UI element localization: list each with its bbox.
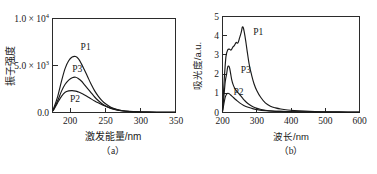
panel-a-ylabel: 振子强度 — [4, 46, 16, 86]
panel-a-label-p2: P2 — [70, 94, 80, 104]
panel-b-xlabel: 波长/nm — [273, 131, 309, 142]
panel-b-label-p2: P2 — [233, 87, 243, 97]
panel-b-ytick-label-2: 2 — [214, 69, 219, 79]
panel-b-label-p3: P3 — [241, 65, 251, 75]
panel-b-ylabel: 吸光度/a.u. — [192, 42, 203, 91]
panel-b-ytick-label-3: 3 — [214, 50, 219, 60]
panel-b-xtick-label-2: 400 — [284, 116, 299, 126]
panel-a-xtick-label-2: 300 — [134, 116, 149, 126]
panel-b-xtick-label-1: 300 — [250, 116, 264, 126]
panel-a-xtick-label-0: 200 — [63, 116, 78, 126]
panel-a-ytick-label-2: 1.0 × 104 — [14, 12, 49, 24]
panel-a-svg: 1.0 × 104 5.0 × 103 0.0 200 250 300 350 … — [0, 0, 190, 174]
panel-b-xtick-label-4: 600 — [352, 116, 367, 126]
panel-b-label-p1: P1 — [253, 27, 263, 37]
panel-a-caption: （a） — [101, 145, 125, 156]
panel-a-xtick-label-3: 350 — [169, 116, 184, 126]
panel-b-caption: （b） — [279, 145, 304, 156]
panel-a-ytick-label-0: 0.0 — [37, 108, 49, 118]
panel-a-xtick-label-1: 250 — [98, 116, 113, 126]
chart-panel-a: 1.0 × 104 5.0 × 103 0.0 200 250 300 350 … — [0, 0, 190, 174]
panel-b-ytick-label-4: 4 — [214, 31, 219, 41]
panel-b-xtick-label-3: 500 — [318, 116, 333, 126]
panel-b-xtick-label-0: 200 — [215, 116, 230, 126]
panel-a-label-p3: P3 — [72, 64, 82, 74]
panel-a-xlabel: 激发能量/nm — [85, 130, 142, 142]
panel-a-label-p1: P1 — [81, 42, 91, 52]
chart-panel-b: 5 4 3 2 1 0 200 300 400 500 600 P1 P3 P2… — [188, 0, 377, 174]
panel-b-ytick-label-5: 5 — [214, 12, 219, 22]
panel-a-ytick-label-1: 5.0 × 103 — [14, 59, 49, 71]
panel-b-ytick-label-1: 1 — [214, 88, 219, 98]
panel-b-svg: 5 4 3 2 1 0 200 300 400 500 600 P1 P3 P2… — [188, 0, 377, 174]
figure-root: 1.0 × 104 5.0 × 103 0.0 200 250 300 350 … — [0, 0, 377, 174]
